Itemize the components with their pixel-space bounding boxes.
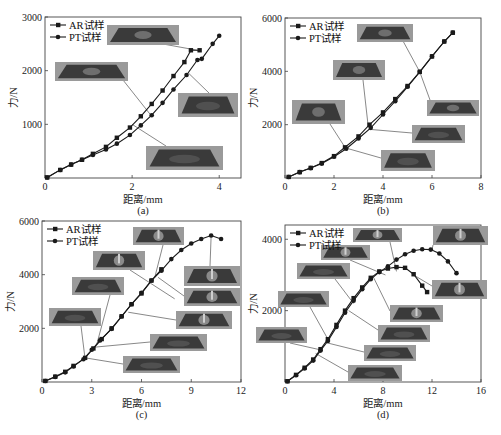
spike-highlight	[459, 283, 461, 293]
square-marker	[425, 290, 429, 294]
y-tick-label: 4000	[19, 269, 39, 280]
circle-marker	[311, 358, 316, 363]
legend: AR试样PT试样	[290, 227, 344, 251]
x-tick-label: 0	[283, 385, 288, 396]
chart-panel-b: 02468200040006000距离/mm力/N(b)AR试样PT试样	[247, 13, 484, 218]
legend-ar-label: AR试样	[309, 227, 344, 239]
circle-marker	[159, 268, 164, 273]
x-tick-label: 8	[479, 181, 484, 192]
square-marker	[197, 48, 201, 52]
x-tick-label: 2	[332, 181, 337, 192]
dent-highlight	[378, 29, 391, 36]
inset-photo-5	[371, 125, 465, 143]
circle-marker	[356, 136, 361, 141]
square-marker	[403, 266, 407, 270]
flat-highlight	[428, 132, 449, 138]
legend-ar-label: AR试样	[69, 19, 104, 31]
y-tick-label: 4000	[262, 234, 282, 245]
circle-marker	[81, 357, 86, 362]
flat-highlight	[397, 158, 419, 166]
spike-highlight	[416, 308, 418, 317]
leader-line	[128, 312, 176, 320]
circle-marker	[394, 257, 399, 262]
legend-pt-marker	[53, 239, 58, 244]
flat-highlight	[380, 351, 401, 357]
chart-panel-d: 048121620004000距离/mm力/N(d)AR试样PT试样	[247, 225, 488, 421]
leader-line	[371, 129, 412, 133]
circle-marker	[171, 87, 176, 92]
x-tick-label: 16	[476, 385, 486, 396]
circle-marker	[417, 70, 422, 75]
legend-pt-marker	[56, 35, 61, 40]
circle-marker	[109, 327, 114, 332]
x-tick-label: 4	[217, 181, 222, 192]
circle-marker	[58, 168, 63, 173]
circle-marker	[437, 251, 442, 256]
leader-line	[316, 353, 348, 372]
spike-highlight	[460, 229, 462, 239]
y-axis-label: 力/N	[4, 291, 16, 312]
circle-marker	[199, 237, 204, 242]
circle-marker	[128, 133, 133, 138]
circle-marker	[189, 241, 194, 246]
inset-photo-5	[256, 327, 321, 350]
square-marker	[411, 272, 415, 276]
x-tick-label: 4	[381, 181, 386, 192]
flat-highlight	[88, 284, 109, 290]
flat-highlight	[313, 269, 334, 275]
circle-marker	[219, 237, 224, 242]
spike-highlight	[118, 254, 120, 264]
circle-marker	[332, 154, 337, 159]
leader-line	[85, 358, 123, 364]
circle-marker	[351, 298, 356, 303]
circle-marker	[420, 247, 425, 252]
legend-ar-marker	[296, 24, 300, 28]
x-axis-label: 距离/mm	[123, 193, 162, 205]
square-marker	[139, 114, 143, 118]
legend: AR试样PT试样	[47, 223, 101, 247]
legend-ar-marker	[296, 231, 300, 235]
circle-marker	[98, 338, 103, 343]
circle-marker	[149, 113, 154, 118]
circle-marker	[43, 379, 48, 384]
square-marker	[128, 125, 132, 129]
figure-force-displacement: 024100020003000距离/mm力/N(a)AR试样PT试样024682…	[0, 0, 501, 435]
x-tick-label: 3	[89, 385, 94, 396]
inset-photo-7	[128, 311, 232, 329]
leader-line	[189, 73, 209, 93]
x-axis-label: 距离/mm	[122, 397, 161, 409]
flat-highlight	[167, 340, 190, 346]
inset-photo-7	[414, 275, 487, 299]
y-axis-label: 力/N	[247, 293, 259, 314]
circle-marker	[403, 252, 408, 257]
circle-marker	[368, 126, 373, 131]
panel-caption: (d)	[377, 409, 390, 421]
panel-caption: (a)	[137, 205, 149, 217]
leader-line	[95, 342, 150, 347]
leader-line	[123, 80, 152, 116]
circle-marker	[160, 101, 165, 106]
inset-photo-3	[292, 100, 345, 147]
inset-photo-6	[432, 226, 488, 250]
circle-marker	[377, 270, 382, 275]
leader-line	[373, 277, 390, 311]
leader-line	[335, 279, 354, 304]
circle-marker	[294, 373, 299, 378]
spike-highlight	[203, 314, 205, 323]
circle-marker	[386, 264, 391, 269]
legend-pt-marker	[296, 36, 301, 41]
y-axis-label: 力/N	[247, 87, 259, 108]
square-marker	[394, 265, 398, 269]
x-tick-label: 2	[130, 181, 135, 192]
circle-marker	[411, 248, 416, 253]
leader-line	[210, 235, 211, 266]
dent-highlight	[447, 105, 459, 111]
circle-marker	[344, 146, 349, 151]
leader-line	[330, 124, 345, 147]
circle-marker	[381, 112, 386, 117]
inset-photo-4	[132, 124, 223, 170]
dent-highlight	[134, 31, 151, 39]
circle-marker	[297, 170, 302, 175]
leader-line	[290, 343, 321, 350]
circle-marker	[430, 54, 435, 59]
